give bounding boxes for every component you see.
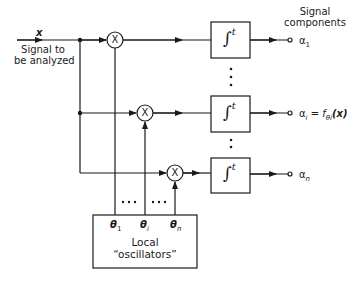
theta-subscript: n [177,225,181,233]
integral-sign: ∫ [223,163,232,183]
integral-sign: ∫ [223,28,232,48]
alpha-subscript: n [306,175,310,183]
integral-limit: t [232,161,236,172]
oscillator-label-line2: “oscillators” [93,248,197,260]
function-symbol: = f [308,108,326,119]
multiplier-n-symbol: X [167,167,183,178]
alpha-symbol: α [299,169,306,180]
input-label-line1: Signal to [14,44,72,55]
integrator-n-symbol: ∫t [223,163,236,183]
output-terminal-1 [288,38,292,42]
input-symbol: x [36,27,42,38]
integral-limit: t [232,26,236,37]
alpha-subscript: 1 [306,41,310,49]
output-terminal-n [288,172,292,176]
alpha-symbol: α [299,35,306,46]
multiplier-i-symbol: X [137,107,153,118]
integral-sign: ∫ [223,102,232,122]
integrator-1-symbol: ∫t [223,28,236,48]
output-header-line2: components [282,17,348,28]
horizontal-ellipsis [122,201,166,203]
output-header-line1: Signal [282,6,348,17]
theta-i-label: θi [140,219,149,235]
output-header: Signal components [282,6,348,28]
output-label-n: αn [299,169,310,185]
theta-symbol: θ [170,219,177,230]
output-label-1: α1 [299,35,310,51]
oscillator-label: Local “oscillators” [93,236,197,260]
theta-subscript: 1 [117,225,121,233]
integral-limit: t [232,100,236,111]
theta-symbol: θ [140,219,147,230]
theta-symbol: θ [110,219,117,230]
alpha-symbol: α [299,108,306,119]
theta-1-label: θ1 [110,219,121,235]
oscillator-label-line1: Local [93,236,197,248]
integrator-i-symbol: ∫t [223,102,236,122]
theta-subscript: i [147,225,149,233]
input-label: Signal to be analyzed [14,44,72,66]
output-label-i: αi = fθi(x) [299,108,348,124]
function-argument: (x) [332,108,348,119]
multiplier-1-symbol: X [107,34,123,45]
theta-n-label: θn [170,219,181,235]
input-label-line2: be analyzed [14,55,72,66]
output-terminal-i [288,111,292,115]
